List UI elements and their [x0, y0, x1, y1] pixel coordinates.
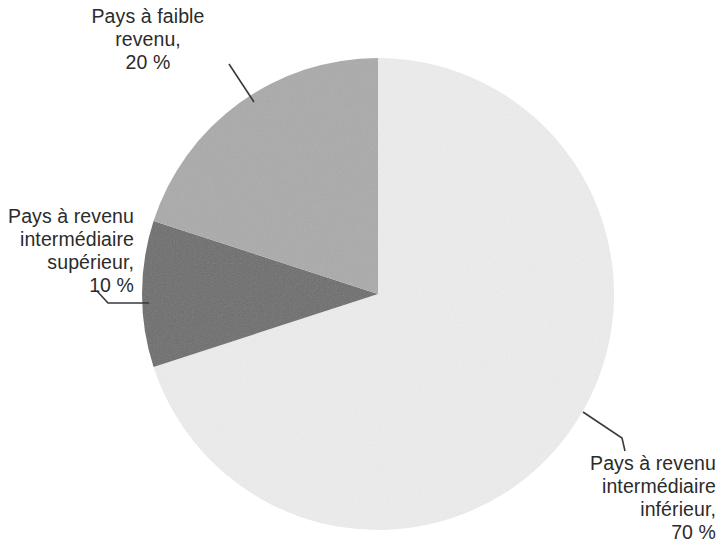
pie-label-upper-middle-income: Pays à revenu intermédiaire supérieur, 1… [0, 205, 134, 297]
pie-label-lower-middle-income-line-3: inférieur, [420, 498, 716, 521]
pie-label-upper-middle-income-value: 10 % [0, 274, 134, 297]
pie-label-lower-middle-income: Pays à revenu intermédiaire inférieur, 7… [420, 452, 716, 544]
pie-label-lower-middle-income-line-2: intermédiaire [420, 475, 716, 498]
pie-label-upper-middle-income-line-3: supérieur, [0, 251, 134, 274]
pie-label-low-income-line-1: Pays à faible [0, 5, 296, 28]
pie-label-low-income: Pays à faible revenu, 20 % [0, 5, 296, 74]
pie-label-upper-middle-income-line-1: Pays à revenu [0, 205, 134, 228]
pie-label-low-income-line-2: revenu, [0, 28, 296, 51]
pie-label-low-income-value: 20 % [0, 51, 296, 74]
pie-chart-figure: Pays à faible revenu, 20 % Pays à revenu… [0, 0, 723, 553]
pie-label-upper-middle-income-line-2: intermédiaire [0, 228, 134, 251]
leader-line-lower-middle-income [583, 412, 625, 451]
pie-label-lower-middle-income-line-1: Pays à revenu [420, 452, 716, 475]
pie-label-lower-middle-income-value: 70 % [420, 521, 716, 544]
